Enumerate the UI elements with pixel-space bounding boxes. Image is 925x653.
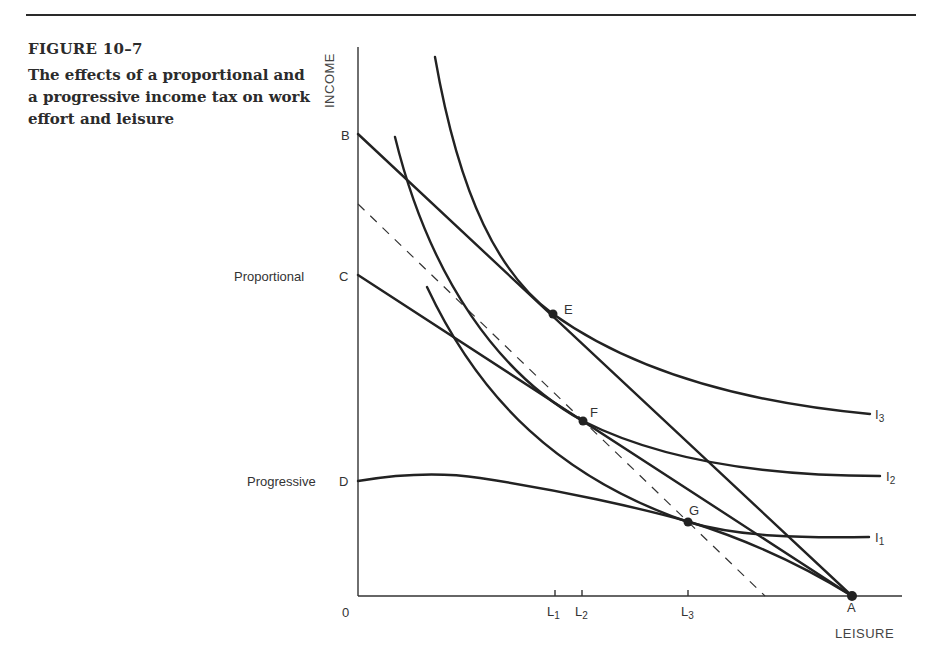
indifference-curve-i1 <box>427 287 869 537</box>
point-label-a: A <box>847 600 856 615</box>
label-proportional: Proportional <box>234 269 304 284</box>
curve-label-i2: I2 <box>886 469 896 486</box>
label-d: D <box>339 474 348 489</box>
point-a <box>847 591 857 601</box>
budget-line-ab <box>358 134 852 596</box>
label-b: B <box>341 128 350 143</box>
tick-label-l2: L2 <box>575 604 588 621</box>
budget-line-ac <box>358 275 852 596</box>
point-g <box>684 518 693 527</box>
curve-label-i1: I1 <box>875 530 885 547</box>
origin-label: 0 <box>342 605 349 620</box>
point-e <box>549 310 558 319</box>
label-c: C <box>339 269 348 284</box>
tick-label-l3: L3 <box>681 604 694 621</box>
point-label-g: G <box>689 503 699 518</box>
tick-label-l1: L1 <box>547 604 560 621</box>
y-axis-title: INCOME <box>322 53 337 108</box>
point-label-f: F <box>590 405 598 420</box>
label-progressive: Progressive <box>247 474 316 489</box>
x-axis-title: LEISURE <box>835 626 894 641</box>
chart-canvas: INCOME B C Proportional D Progressive 0 … <box>0 0 925 653</box>
dashed-parallel-line <box>358 204 765 596</box>
indifference-curve-i3 <box>435 57 870 414</box>
point-label-e: E <box>564 302 573 317</box>
curve-label-i3: I3 <box>875 407 885 424</box>
point-f <box>579 417 588 426</box>
